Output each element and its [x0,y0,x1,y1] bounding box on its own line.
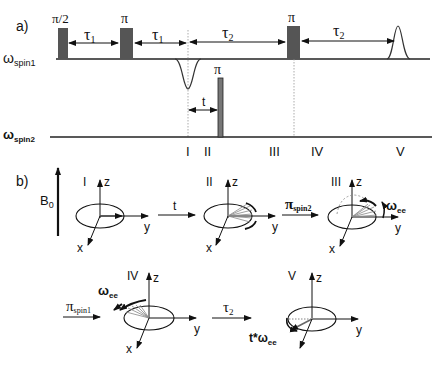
x-label: x [126,342,132,356]
x-label: x [329,242,335,256]
pulse-sequence-diagram: a) ωspin1 π/2 π π τ1 τ1 τ2 τ2 ωspin2 π t… [0,0,440,365]
pulse-pi-spin2-label: π [214,62,221,77]
frame-V-label: V [288,269,296,283]
x-axis [88,216,100,245]
x-axis [216,216,228,245]
pulse-pi-2 [287,26,300,59]
z-label: z [153,271,159,285]
tau1-label-b: τ1 [152,26,163,45]
frame-II: II z y x [204,175,278,255]
panel-a-label: a) [16,18,28,34]
dephasing-fan [352,204,377,217]
y-label: y [395,221,401,235]
pulse-pi-half [58,28,68,59]
omega-ee-label: ωee [386,198,406,215]
y-label: y [272,220,278,234]
frame-IV: IV z y ωee x [98,269,200,356]
x-axis [137,318,149,348]
timepoint-V: V [396,144,405,159]
transition-pi-spin1-label: πspin1 [66,298,91,315]
y-label: y [144,220,150,234]
frame-I-label: I [83,175,86,189]
x-label: x [77,241,83,255]
timepoint-IV: IV [311,144,324,159]
z-label: z [356,175,362,189]
spin2-channel-label: ωspin2 [3,127,35,144]
x-label: x [206,241,212,255]
timepoint-III: III [269,144,280,159]
tau2-label-b: τ2 [333,22,344,41]
pulse-pi-half-label: π/2 [52,11,69,26]
magnetization-vector [291,319,312,330]
frame-I: I z y x [76,175,150,255]
tau2-label-a: τ2 [222,24,233,43]
timepoint-II: II [204,144,211,159]
t-label: t [202,95,206,109]
frame-V: V z y t*ωee [249,269,362,348]
pulse-pi-1-label: π [121,11,128,26]
pulse-pi-2-label: π [288,10,295,25]
tau1-label-a: τ1 [84,26,95,45]
pulse-pi-spin2 [218,78,223,137]
panel-b-label: b) [16,173,28,189]
x-axis [340,217,352,246]
spin1-channel-label: ωspin1 [3,50,35,68]
x-axis [300,319,312,348]
y-label: y [194,322,200,336]
transition-pi-spin2-label: πspin2 [285,196,311,213]
phase-label: t*ωee [249,331,277,347]
frame-II-label: II [206,175,213,189]
b0-label: B0 [40,193,54,210]
z-label: z [232,175,238,189]
frame-III: III z y ωee x [328,175,406,256]
transition-tau2-label: τ2 [223,299,234,317]
z-label: z [316,271,322,285]
z-label: z [104,175,110,189]
omega-ee-label: ωee [98,283,118,300]
pulse-pi-1 [120,28,133,59]
transition-t-label: t [173,199,177,213]
echo-shape [387,26,410,59]
refocus-arrow [360,201,376,206]
omega-ee-arrow [382,202,384,218]
timepoint-I: I [186,144,190,159]
frame-IV-label: IV [127,269,138,283]
dephasing-fan [228,204,252,222]
dephasing-fan [126,305,149,318]
frame-III-label: III [331,175,341,189]
rotation-arrow-down [245,221,256,229]
y-label: y [356,323,362,337]
